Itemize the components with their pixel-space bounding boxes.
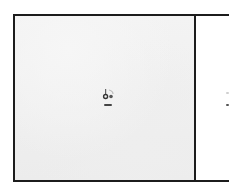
center-item[interactable]: [101, 88, 115, 106]
app-window: [13, 14, 229, 182]
center-item-caption: [104, 104, 112, 106]
side-panel: [196, 16, 229, 180]
main-panel[interactable]: [15, 16, 196, 180]
scroll-mark-light: [226, 92, 229, 94]
desktop-file-icon[interactable]: [101, 88, 115, 102]
side-scroll-indicator[interactable]: [225, 88, 229, 118]
scroll-mark-dark: [226, 104, 229, 106]
